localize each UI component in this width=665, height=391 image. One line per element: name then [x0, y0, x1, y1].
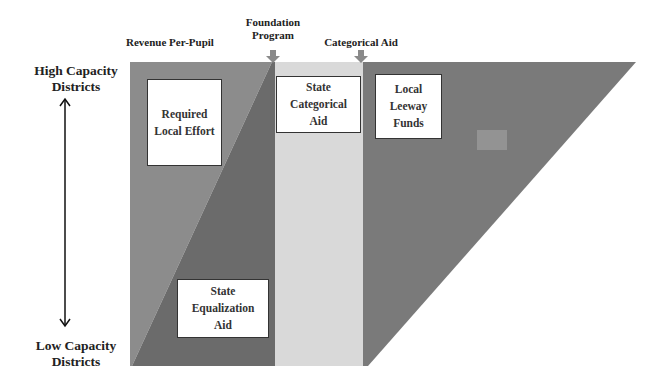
required-local-effort-box: Required Local Effort	[147, 79, 222, 166]
revenue-per-pupil-label: Revenue Per-Pupil	[110, 36, 230, 49]
high-capacity-label: High Capacity Districts	[28, 63, 124, 95]
foundation-arrow-icon	[266, 50, 280, 63]
categorical-aid-label: Categorical Aid	[316, 36, 406, 49]
marker-square	[477, 130, 507, 150]
funding-diagram	[0, 0, 665, 391]
local-leeway-funds-box: Local Leeway Funds	[375, 74, 442, 139]
state-categorical-aid-box: State Categorical Aid	[276, 76, 361, 133]
categorical-arrow-icon	[354, 50, 368, 63]
state-equalization-aid-box: State Equalization Aid	[177, 279, 269, 338]
low-capacity-label: Low Capacity Districts	[28, 338, 124, 370]
capacity-axis-arrow-icon	[60, 99, 70, 326]
foundation-program-label: Foundation Program	[238, 16, 308, 42]
